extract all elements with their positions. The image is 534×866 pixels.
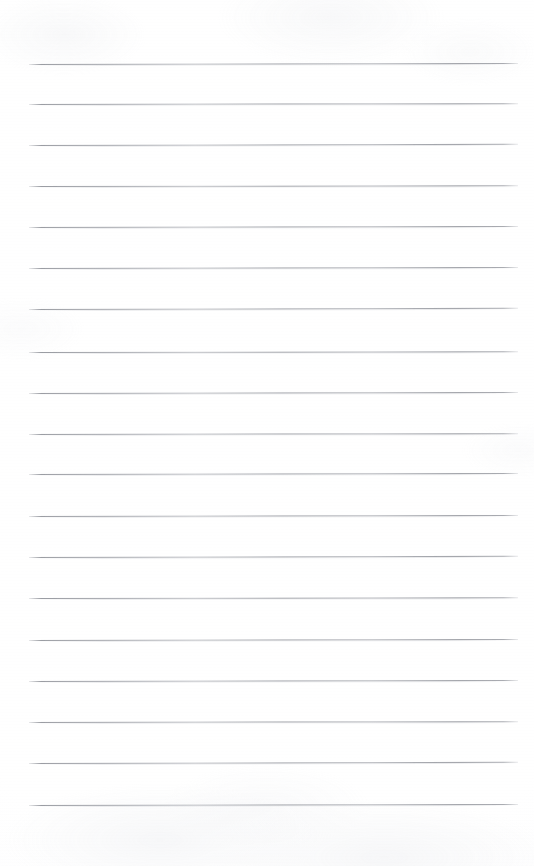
paper-background [0,0,534,866]
notepad-page [0,0,534,866]
